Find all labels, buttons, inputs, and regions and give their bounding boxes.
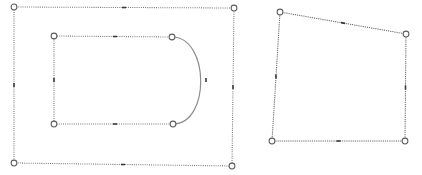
vertex-handle-bottom-right[interactable] xyxy=(402,138,408,144)
vertex-handle-bottom-right[interactable] xyxy=(170,121,176,127)
shape-right-quadrilateral[interactable] xyxy=(269,9,409,144)
vertex-handle-top-left[interactable] xyxy=(51,33,57,39)
shape-vector-layer[interactable] xyxy=(0,0,422,175)
vertex-handle-bottom-right[interactable] xyxy=(229,163,235,169)
shape-inner-d[interactable] xyxy=(51,33,206,127)
vertex-handle-bottom-left[interactable] xyxy=(269,138,275,144)
vertex-handle-top-right[interactable] xyxy=(231,5,237,11)
inner-d-fill xyxy=(54,36,200,124)
vertex-handle-top-right[interactable] xyxy=(403,31,409,37)
right-quadrilateral-fill xyxy=(272,12,406,141)
vertex-handle-top-right[interactable] xyxy=(169,34,175,40)
vertex-handle-top-left[interactable] xyxy=(277,9,283,15)
vertex-handle-bottom-left[interactable] xyxy=(11,160,17,166)
midpoint-tick-top-edge-mid xyxy=(341,23,345,24)
vertex-handle-top-left[interactable] xyxy=(11,4,17,10)
shape-editor-canvas[interactable] xyxy=(0,0,422,175)
vertex-handle-bottom-left[interactable] xyxy=(51,121,57,127)
